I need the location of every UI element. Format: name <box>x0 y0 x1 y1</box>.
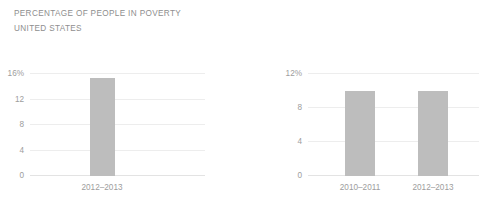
gridline-us-12: 12 <box>30 99 205 100</box>
y-axis-tick-us-4: 4 <box>19 145 24 154</box>
x-axis-label-us-0: 2012–2013 <box>82 183 123 192</box>
chart-panel-maryland: MARYLAND 04812%2010–20112012–2013 <box>250 0 479 201</box>
y-axis-tick-md-0: 0 <box>297 171 302 180</box>
x-axis-label-md-0: 2010–2011 <box>340 183 380 192</box>
gridline-us-8: 8 <box>30 124 205 125</box>
gridline-md-8: 8 <box>308 107 479 108</box>
x-axis-label-md-1: 2012–2013 <box>413 183 454 192</box>
y-axis-tick-us-12: 12 <box>15 94 24 103</box>
gridline-us-4: 4 <box>30 150 205 151</box>
y-axis-tick-md-4: 4 <box>297 137 302 146</box>
gridline-us-16: 16% <box>30 73 205 74</box>
plot-area-united-states: 0481216%2012–2013 <box>30 62 205 176</box>
gridline-md-0: 0 <box>308 175 479 176</box>
bar-us-0[interactable] <box>90 78 115 176</box>
bar-md-0[interactable] <box>345 91 375 176</box>
panel-subtitle-united-states: UNITED STATES <box>14 21 181 36</box>
bar-md-1[interactable] <box>418 91 448 176</box>
y-axis-tick-us-0: 0 <box>19 171 24 180</box>
y-axis-tick-md-12: 12% <box>286 69 302 78</box>
gridline-md-4: 4 <box>308 141 479 142</box>
gridline-us-0: 0 <box>30 175 205 176</box>
page-title: PERCENTAGE OF PEOPLE IN POVERTY <box>14 6 181 21</box>
y-axis-tick-us-16: 16% <box>8 69 24 78</box>
plot-area-maryland: 04812%2010–20112012–2013 <box>308 62 479 176</box>
y-axis-tick-md-8: 8 <box>297 103 302 112</box>
chart-panel-united-states: PERCENTAGE OF PEOPLE IN POVERTY UNITED S… <box>0 0 250 201</box>
gridline-md-12: 12% <box>308 73 479 74</box>
y-axis-tick-us-8: 8 <box>19 120 24 129</box>
chart-heading-block: PERCENTAGE OF PEOPLE IN POVERTY UNITED S… <box>14 6 181 36</box>
